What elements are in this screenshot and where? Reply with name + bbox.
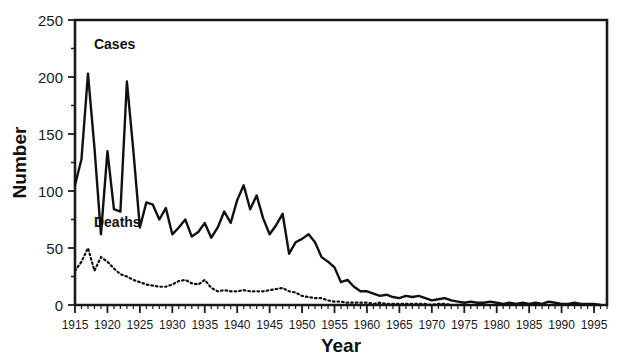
y-tick-label-250: 250 xyxy=(38,12,63,29)
x-tick-label-1940: 1940 xyxy=(224,318,251,332)
x-tick-label-1965: 1965 xyxy=(386,318,413,332)
chart-container: 0501001502002501915192019251930193519401… xyxy=(0,0,620,360)
x-tick-label-1980: 1980 xyxy=(483,318,510,332)
plot-frame xyxy=(75,20,607,305)
line-chart: 0501001502002501915192019251930193519401… xyxy=(0,0,620,360)
x-tick-label-1920: 1920 xyxy=(94,318,121,332)
x-tick-label-1960: 1960 xyxy=(354,318,381,332)
y-axis-label: Number xyxy=(9,126,30,198)
x-tick-label-1970: 1970 xyxy=(418,318,445,332)
series-line-cases xyxy=(75,74,601,305)
x-axis-label: Year xyxy=(321,335,362,356)
y-tick-label-0: 0 xyxy=(55,297,63,314)
y-tick-label-200: 200 xyxy=(38,69,63,86)
x-tick-label-1930: 1930 xyxy=(159,318,186,332)
series-label-deaths: Deaths xyxy=(94,214,141,230)
x-tick-label-1990: 1990 xyxy=(548,318,575,332)
y-tick-label-150: 150 xyxy=(38,126,63,143)
x-tick-label-1950: 1950 xyxy=(289,318,316,332)
x-tick-label-1925: 1925 xyxy=(127,318,154,332)
x-tick-label-1955: 1955 xyxy=(321,318,348,332)
series-label-cases: Cases xyxy=(94,36,135,52)
x-tick-label-1945: 1945 xyxy=(256,318,283,332)
x-tick-label-1915: 1915 xyxy=(62,318,89,332)
y-tick-label-50: 50 xyxy=(46,240,63,257)
x-tick-label-1985: 1985 xyxy=(516,318,543,332)
x-tick-label-1935: 1935 xyxy=(191,318,218,332)
x-tick-label-1995: 1995 xyxy=(581,318,608,332)
x-tick-label-1975: 1975 xyxy=(451,318,478,332)
y-tick-label-100: 100 xyxy=(38,183,63,200)
